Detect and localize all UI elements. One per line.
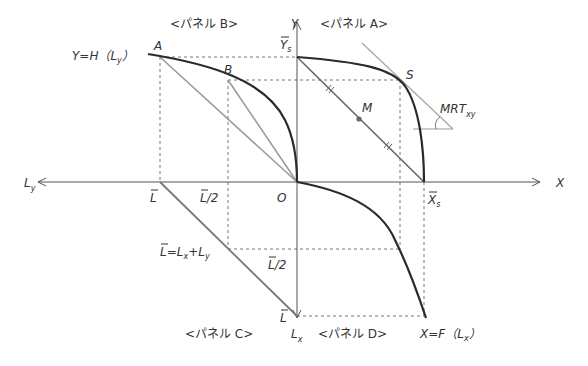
l-bar-down-label: L [280, 311, 287, 325]
y-axis-label: Y [291, 17, 300, 31]
lx-axis-label: Lx [291, 327, 303, 344]
l-constraint-label: L=Lx+Ly [160, 245, 210, 261]
ys-label: Ys [280, 38, 292, 54]
four-panel-production-diagram: <パネル B> <パネル A> <パネル C> <パネル D> Y X Ly L… [0, 0, 588, 366]
point-m-marker [356, 116, 361, 121]
origin-label: O [277, 191, 286, 205]
point-m-label: M [362, 101, 373, 115]
x-axis-label: X [555, 176, 565, 190]
h-function-label: Y=H（Ly） [72, 49, 134, 65]
panel-d-curve [297, 182, 426, 318]
mrt-angle-arc-icon [435, 117, 440, 129]
point-b-label: B [224, 63, 232, 77]
dashed-guides [160, 57, 424, 316]
point-s-label: S [406, 68, 414, 82]
ly-axis-label: Ly [24, 176, 36, 193]
xs-label: Xs [427, 193, 440, 209]
mrt-label: MRTxy [440, 102, 476, 119]
panel-c-title: <パネル C> [185, 327, 253, 341]
panel-a-title: <パネル A> [320, 17, 388, 31]
panel-b-curve [148, 54, 297, 182]
l-bar-left-label: L [150, 191, 157, 205]
l-half-left-label: L/2 [200, 191, 218, 205]
l-half-down-label: L/2 [268, 258, 286, 272]
panel-d-title: <パネル D> [318, 327, 387, 341]
point-a-label: A [153, 39, 162, 53]
mrt-tangent-line [362, 43, 453, 129]
panel-b-title: <パネル B> [170, 17, 238, 31]
curves [148, 54, 426, 318]
f-function-label: X=F（Lx） [419, 327, 481, 343]
